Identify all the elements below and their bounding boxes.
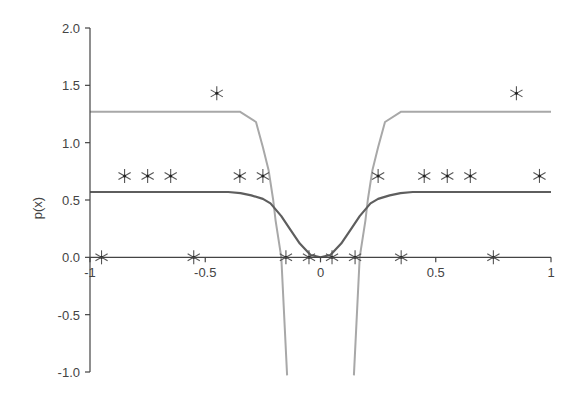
light-curve-left bbox=[90, 112, 287, 376]
y-tick-label: 1.5 bbox=[62, 78, 80, 93]
asterisk-marker bbox=[118, 169, 130, 183]
y-axis-label: p(x) bbox=[30, 197, 45, 219]
y-tick-label: 2.0 bbox=[62, 21, 80, 36]
y-tick-label: -0.5 bbox=[58, 308, 80, 323]
asterisk-marker bbox=[533, 169, 545, 183]
x-tick-label: 1 bbox=[547, 265, 554, 280]
x-tick-label: -0.5 bbox=[194, 265, 216, 280]
asterisk-marker bbox=[441, 169, 453, 183]
asterisk-marker bbox=[372, 169, 384, 183]
asterisk-marker bbox=[257, 169, 269, 183]
y-tick-label: -1.0 bbox=[58, 365, 80, 380]
axes: 2.01.51.00.50.0-0.5-1.0-1-0.500.51 bbox=[58, 21, 555, 380]
x-tick-label: -1 bbox=[84, 265, 96, 280]
y-tick-label: 0.0 bbox=[62, 250, 80, 265]
asterisk-marker bbox=[234, 169, 246, 183]
asterisk-marker bbox=[418, 169, 430, 183]
scatter-markers bbox=[95, 86, 545, 264]
x-tick-label: 0 bbox=[317, 265, 324, 280]
y-tick-label: 1.0 bbox=[62, 136, 80, 151]
asterisk-marker bbox=[510, 86, 522, 100]
dark-curve bbox=[90, 192, 551, 257]
curves bbox=[90, 112, 551, 376]
line-chart: 2.01.51.00.50.0-0.5-1.0-1-0.500.51 p(x) bbox=[0, 0, 579, 399]
light-curve-right bbox=[354, 112, 551, 376]
asterisk-marker bbox=[464, 169, 476, 183]
asterisk-marker bbox=[211, 86, 223, 100]
asterisk-marker bbox=[142, 169, 154, 183]
x-tick-label: 0.5 bbox=[427, 265, 445, 280]
y-tick-label: 0.5 bbox=[62, 193, 80, 208]
asterisk-marker bbox=[165, 169, 177, 183]
